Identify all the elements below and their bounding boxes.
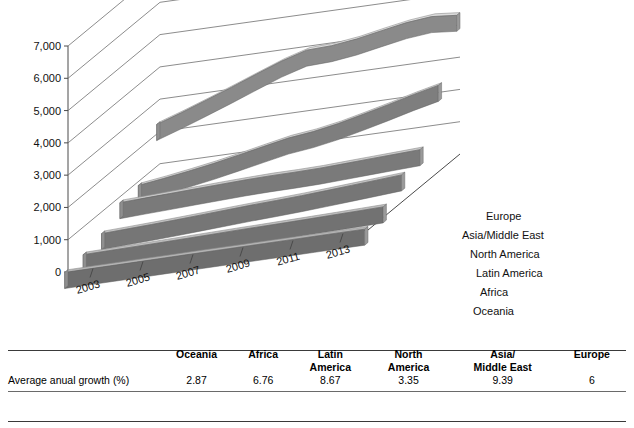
table-header: Oceania Africa Latin America North Ameri…: [8, 348, 626, 374]
series-label-asia-middle-east: Asia/Middle East: [462, 229, 544, 241]
series-labels-group: OceaniaAfricaLatin AmericaNorth AmericaA…: [462, 210, 544, 317]
table-header-oceania-line1: Oceania: [158, 348, 235, 361]
series-label-north-america: North America: [470, 248, 541, 260]
table-header-latin-america: Latin America: [291, 348, 369, 374]
table-cell-oceania: 2.87: [158, 374, 235, 386]
table-header-latin-america-line2: America: [291, 361, 369, 374]
table-header-africa: Africa: [235, 348, 291, 374]
series-end-cap: [438, 83, 441, 102]
table-row-label: Average anual growth (%): [8, 374, 158, 386]
table-header-north-america-line2: America: [369, 361, 447, 374]
table-body: Average anual growth (%) 2.87 6.76 8.67 …: [8, 374, 626, 386]
series-label-europe: Europe: [486, 210, 521, 222]
chart-series-group: [65, 13, 460, 289]
series-end-cap: [420, 147, 423, 166]
y-tick-label: 6,000: [33, 72, 61, 84]
series-end-cap: [365, 226, 368, 245]
series-europe: [157, 13, 460, 141]
series-start-cap: [157, 122, 160, 141]
series-label-oceania: Oceania: [473, 305, 515, 317]
table-header-asia-middle-east-line1: Asia/: [448, 348, 558, 361]
y-tick-label: 2,000: [33, 201, 61, 213]
average-annual-growth-table: Oceania Africa Latin America North Ameri…: [8, 348, 626, 386]
series-start-cap: [65, 270, 68, 289]
table-rule-bottom: [8, 421, 626, 422]
y-tick-label: 3,000: [33, 169, 61, 181]
y-tick-label: 7,000: [33, 40, 61, 52]
series-start-cap: [102, 231, 105, 250]
series-label-latin-america: Latin America: [476, 267, 544, 279]
table-cell-asia-middle-east: 9.39: [448, 374, 558, 386]
table-header-rowlabel: [8, 348, 158, 374]
series-start-cap: [120, 200, 123, 219]
series-end-cap: [383, 204, 386, 223]
table-header-oceania: Oceania: [158, 348, 235, 374]
y-tick-label: 4,000: [33, 137, 61, 149]
y-axis-tick-labels: 01,0002,0003,0004,0005,0006,0007,000: [33, 40, 68, 278]
table-header-africa-line1: Africa: [235, 348, 291, 361]
table-header-europe-line1: Europe: [558, 348, 626, 361]
series-front-face: [157, 15, 457, 140]
table-header-row: Oceania Africa Latin America North Ameri…: [8, 348, 626, 374]
y-tick-label: 1,000: [33, 234, 61, 246]
chart-figure: 01,0002,0003,0004,0005,0006,0007,0002003…: [0, 0, 634, 342]
table-cell-europe: 6: [558, 374, 626, 386]
three-d-area-chart: 01,0002,0003,0004,0005,0006,0007,0002003…: [0, 0, 634, 342]
table-rule-middle: [8, 391, 626, 392]
y-tick-label: 0: [55, 266, 61, 278]
series-label-africa: Africa: [480, 286, 509, 298]
table-cell-africa: 6.76: [235, 374, 291, 386]
table-header-asia-middle-east-line2: Middle East: [448, 361, 558, 374]
series-end-cap: [457, 13, 460, 32]
table-cell-latin-america: 8.67: [291, 374, 369, 386]
table-row: Average anual growth (%) 2.87 6.76 8.67 …: [8, 374, 626, 386]
table-header-latin-america-line1: Latin: [291, 348, 369, 361]
series-end-cap: [402, 172, 405, 191]
table-header-europe: Europe: [558, 348, 626, 374]
table-header-north-america: North America: [369, 348, 447, 374]
table-cell-north-america: 3.35: [369, 374, 447, 386]
table-header-north-america-line1: North: [369, 348, 447, 361]
table-header-asia-middle-east: Asia/ Middle East: [448, 348, 558, 374]
y-tick-label: 5,000: [33, 105, 61, 117]
